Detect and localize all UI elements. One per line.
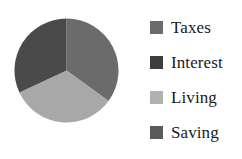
legend-label-living: Living <box>171 89 217 106</box>
legend-swatch-interest <box>150 56 163 69</box>
legend-item-taxes[interactable]: Taxes <box>150 10 242 45</box>
legend-item-living[interactable]: Living <box>150 80 242 115</box>
legend-swatch-saving <box>150 126 163 139</box>
legend-swatch-living <box>150 91 163 104</box>
pie-slice-group <box>15 19 119 123</box>
legend-item-interest[interactable]: Interest <box>150 45 242 80</box>
chart-legend: Taxes Interest Living Saving <box>150 10 242 152</box>
legend-label-saving: Saving <box>171 124 219 141</box>
legend-label-interest: Interest <box>171 54 223 71</box>
legend-item-saving[interactable]: Saving <box>150 115 242 150</box>
pie-svg <box>14 18 119 123</box>
legend-swatch-taxes <box>150 21 163 34</box>
pie-chart-figure: Taxes Interest Living Saving <box>0 0 242 159</box>
legend-label-taxes: Taxes <box>171 19 211 36</box>
pie-chart-plot-area <box>14 18 119 123</box>
